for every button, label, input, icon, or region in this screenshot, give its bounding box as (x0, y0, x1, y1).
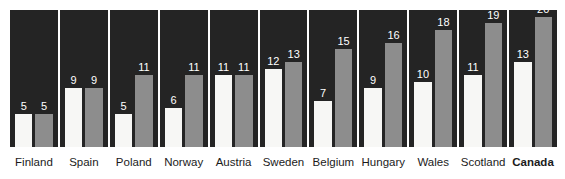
bar-group: 99 (60, 10, 108, 147)
bar-value-label: 6 (165, 95, 182, 106)
bar-value-label: 13 (514, 49, 531, 60)
bar-value-label: 10 (414, 69, 431, 80)
bar-value-label: 9 (364, 75, 381, 86)
bar-group: 1111 (210, 10, 258, 147)
bar-rect (514, 62, 531, 147)
bar-group: 511 (110, 10, 158, 147)
bar-grey-wales: 18 (435, 10, 452, 147)
category-axis-labels: FinlandSpainPolandNorwayAustriaSwedenBel… (10, 150, 557, 174)
bar-group: 1213 (260, 10, 308, 147)
bar-value-label: 11 (464, 62, 481, 73)
bar-white-spain: 9 (65, 10, 82, 147)
bar-rect (485, 23, 502, 147)
category-label-scotland: Scotland (459, 150, 507, 174)
bar-rect (314, 101, 331, 147)
bar-chart: 559951161111111213715916101811191320 Fin… (0, 0, 565, 179)
panel-wales: 1018 (409, 10, 457, 147)
bar-grey-finland: 5 (35, 10, 52, 147)
bar-value-label: 18 (435, 17, 452, 28)
bar-rect (115, 114, 132, 147)
bar-value-label: 5 (115, 101, 132, 112)
panel-scotland: 1119 (459, 10, 507, 147)
bar-group: 916 (359, 10, 407, 147)
bar-value-label: 5 (15, 101, 32, 112)
bar-grey-norway: 11 (185, 10, 202, 147)
bar-value-label: 20 (535, 4, 552, 15)
bar-value-label: 11 (185, 62, 202, 73)
bar-value-label: 11 (135, 62, 152, 73)
bar-value-label: 7 (314, 88, 331, 99)
bar-rect (464, 75, 481, 147)
bar-rect (335, 49, 352, 147)
category-label-poland: Poland (110, 150, 158, 174)
bar-white-poland: 5 (115, 10, 132, 147)
bar-rect (185, 75, 202, 147)
bar-white-norway: 6 (165, 10, 182, 147)
bar-grey-canada: 20 (535, 10, 552, 147)
bar-value-label: 9 (65, 75, 82, 86)
bar-grey-belgium: 15 (335, 10, 352, 147)
bar-value-label: 5 (35, 101, 52, 112)
bar-grey-spain: 9 (85, 10, 102, 147)
panel-sweden: 1213 (260, 10, 308, 147)
bar-white-scotland: 11 (464, 10, 481, 147)
bar-value-label: 15 (335, 36, 352, 47)
bar-rect (15, 114, 32, 147)
bar-grey-scotland: 19 (485, 10, 502, 147)
bar-rect (414, 82, 431, 147)
bar-rect (235, 75, 252, 147)
panel-spain: 99 (60, 10, 108, 147)
bar-rect (65, 88, 82, 147)
bar-white-sweden: 12 (265, 10, 282, 147)
bar-rect (364, 88, 381, 147)
panel-finland: 55 (10, 10, 58, 147)
category-label-finland: Finland (10, 150, 58, 174)
category-label-belgium: Belgium (309, 150, 357, 174)
plot-area: 559951161111111213715916101811191320 (10, 10, 557, 147)
bar-value-label: 16 (385, 30, 402, 41)
panel-norway: 611 (160, 10, 208, 147)
category-label-spain: Spain (60, 150, 108, 174)
bar-rect (35, 114, 52, 147)
bar-white-austria: 11 (215, 10, 232, 147)
bar-value-label: 12 (265, 56, 282, 67)
bar-white-wales: 10 (414, 10, 431, 147)
category-label-norway: Norway (160, 150, 208, 174)
category-label-austria: Austria (210, 150, 258, 174)
bar-rect (535, 17, 552, 147)
panel-belgium: 715 (309, 10, 357, 147)
bar-value-label: 9 (85, 75, 102, 86)
bar-rect (385, 43, 402, 147)
bar-value-label: 19 (485, 10, 502, 21)
bar-white-canada: 13 (514, 10, 531, 147)
bar-rect (265, 69, 282, 147)
bar-rect (285, 62, 302, 147)
category-label-sweden: Sweden (260, 150, 308, 174)
bar-value-label: 11 (235, 62, 252, 73)
bar-rect (85, 88, 102, 147)
panel-hungary: 916 (359, 10, 407, 147)
bar-white-belgium: 7 (314, 10, 331, 147)
category-label-hungary: Hungary (359, 150, 407, 174)
bar-rect (435, 30, 452, 147)
bar-value-label: 11 (215, 62, 232, 73)
bar-rect (165, 108, 182, 147)
bar-grey-sweden: 13 (285, 10, 302, 147)
panel-austria: 1111 (210, 10, 258, 147)
bar-white-hungary: 9 (364, 10, 381, 147)
bar-white-finland: 5 (15, 10, 32, 147)
bar-group: 1119 (459, 10, 507, 147)
bar-group: 1018 (409, 10, 457, 147)
panel-poland: 511 (110, 10, 158, 147)
bar-rect (215, 75, 232, 147)
bar-group: 55 (10, 10, 58, 147)
bar-group: 715 (309, 10, 357, 147)
category-label-canada: Canada (509, 150, 557, 174)
panel-canada: 1320 (509, 10, 557, 147)
bar-group: 1320 (509, 10, 557, 147)
category-label-wales: Wales (409, 150, 457, 174)
bar-grey-hungary: 16 (385, 10, 402, 147)
bar-grey-poland: 11 (135, 10, 152, 147)
bar-grey-austria: 11 (235, 10, 252, 147)
bar-rect (135, 75, 152, 147)
